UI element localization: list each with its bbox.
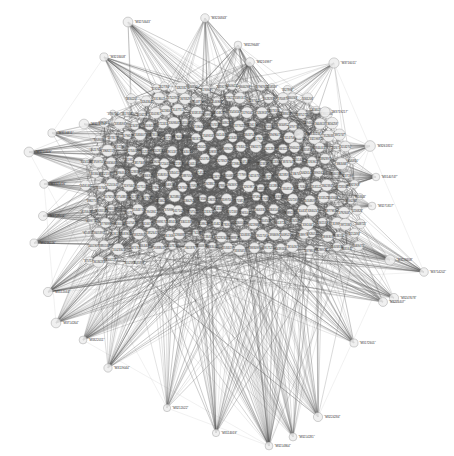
node-label: "3350411" [169,171,181,175]
node-circle[interactable] [289,433,297,441]
graph-node[interactable]: "3549313" [202,129,214,141]
graph-node[interactable]: "3842384" [321,179,333,191]
graph-node[interactable]: "3421673" [248,170,260,181]
graph-node[interactable]: "3592444" [302,218,314,230]
graph-node[interactable]: "3313602" [153,92,165,103]
node-label: "3207269" [287,198,299,202]
graph-node[interactable]: "3261987" [243,181,255,193]
node-circle[interactable] [30,239,38,247]
graph-node[interactable]: "3263918" [256,107,268,118]
node-label: "3264364" [140,100,152,104]
node-circle[interactable] [100,53,108,61]
graph-node[interactable]: "3333545" [234,245,246,256]
node-circle[interactable] [365,141,376,152]
node-circle[interactable] [79,119,89,129]
node-label: "M3172601" [360,341,376,345]
graph-node[interactable]: "3179104" [241,107,253,118]
node-label: "3301206" [302,97,314,101]
node-circle[interactable] [40,180,49,189]
node-circle[interactable] [379,298,388,307]
node-label: "3313602" [153,97,165,101]
node-label: "3479776" [287,125,299,129]
graph-node[interactable]: "3644613" [314,118,326,129]
graph-node[interactable]: "3972747" [334,129,346,141]
node-label: "3261764" [128,195,140,199]
node-circle[interactable] [320,107,330,117]
node-circle[interactable] [420,268,429,277]
node-label: "3892897" [319,157,331,161]
graph-node[interactable]: "3921756" [256,229,268,241]
node-label: "3153270" [339,145,351,149]
graph-node[interactable]: "3792603" [338,207,350,219]
graph-node[interactable]: "3601876" [184,242,196,254]
node-circle[interactable] [43,287,52,296]
node-circle[interactable] [39,212,48,221]
node-circle[interactable] [265,442,273,450]
node-circle[interactable] [329,58,339,68]
node-circle[interactable] [51,318,61,328]
node-label: "M3210409" [35,150,51,154]
node-label: "3875272" [296,113,308,117]
node-label: "3456146" [80,184,92,188]
graph-node[interactable]: "3916430" [286,241,298,253]
node-circle[interactable] [313,412,322,421]
node-circle[interactable] [79,336,87,344]
node-label: "3830220" [125,97,137,101]
graph-node[interactable]: "3301133" [180,216,192,227]
node-circle[interactable] [294,129,304,139]
node-label: "3260563" [234,221,246,225]
graph-node[interactable]: "3625880" [169,190,181,202]
node-label: "3504227" [105,258,117,262]
node-label: "3273928" [217,159,229,163]
node-circle[interactable] [48,129,56,137]
node-label: "3735106" [149,133,161,137]
node-circle[interactable] [372,173,380,181]
graph-node[interactable]: "3832580" [133,228,145,239]
node-circle[interactable] [350,339,358,347]
graph-node[interactable]: "3102330" [112,243,124,255]
node-label: "3469471" [353,244,365,248]
node-label: "3558559" [266,85,278,89]
graph-node[interactable]: "3618428" [92,256,104,267]
node-label: "3203335" [239,233,251,237]
node-circle[interactable] [368,202,376,210]
node-label: "3191961" [306,160,318,164]
node-label: "3540850" [347,159,359,163]
node-circle[interactable] [104,364,112,372]
graph-node[interactable]: "3304514" [281,182,293,194]
node-circle[interactable] [234,41,242,49]
graph-node[interactable]: "3203335" [239,229,251,240]
graph-node[interactable]: "3678329" [179,93,191,104]
node-label: "3844441" [314,146,326,150]
node-label: "3351405" [293,158,305,162]
graph-node[interactable]: "3580350" [157,169,169,180]
node-label: "3216826" [351,209,363,213]
node-label: "3203704" [199,157,211,161]
graph-node[interactable]: "3605395" [93,227,105,238]
graph-node[interactable]: "3589161" [234,92,246,103]
graph-node[interactable]: "3147751" [172,104,184,116]
graph-node[interactable]: "3588843" [153,242,165,254]
node-circle[interactable] [24,147,34,157]
graph-node[interactable]: "3941861" [145,206,157,217]
graph-node[interactable]: "3197044" [123,179,135,191]
graph-node[interactable]: "3184024" [306,204,318,216]
node-label: "3781805" [221,223,233,227]
node-label: "M3218408" [110,55,126,59]
graph-node[interactable]: "3972336" [339,218,351,230]
node-circle[interactable] [163,404,170,411]
node-label: "3613729" [275,221,287,225]
node-label: "3147751" [172,108,184,112]
graph-node[interactable]: "3358593" [114,118,126,130]
node-circle[interactable] [123,17,133,27]
node-circle[interactable] [201,14,210,23]
node-label: "3793562" [235,145,247,149]
node-circle[interactable] [246,58,255,67]
graph-node[interactable]: "3963275" [250,141,262,153]
graph-node[interactable]: "3583407" [134,129,146,140]
node-circle[interactable] [385,255,395,265]
node-circle[interactable] [212,429,219,436]
graph-node[interactable]: "3120164" [106,178,118,190]
graph-node[interactable]: "3709710" [92,156,104,167]
graph-node[interactable]: "3656259" [326,117,338,129]
